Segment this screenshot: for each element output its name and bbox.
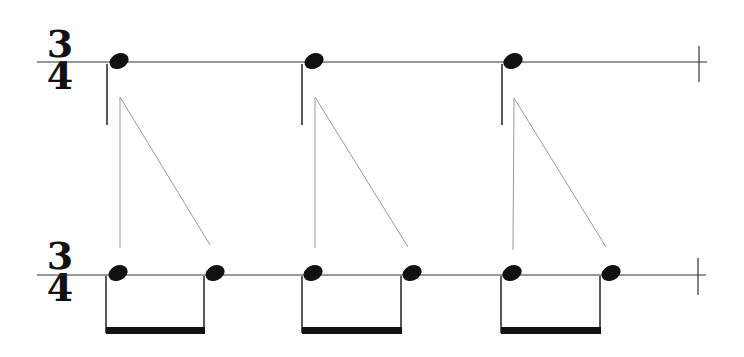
beam <box>501 327 601 334</box>
guide-vertical <box>513 98 514 250</box>
beam <box>302 327 402 334</box>
beam <box>106 327 205 334</box>
notehead-icon <box>107 50 131 72</box>
guide-diagonal <box>120 97 210 245</box>
notehead-icon <box>203 262 227 284</box>
notehead-icon <box>500 262 524 284</box>
notehead-icon <box>301 262 325 284</box>
top-note-1 <box>107 50 131 125</box>
bottom-group-3 <box>500 262 623 334</box>
notehead-icon <box>501 50 525 72</box>
bottom-group-1 <box>106 262 227 334</box>
guide-diagonal <box>315 97 408 247</box>
mapping-guide-1 <box>120 97 210 248</box>
bottom-group-2 <box>301 262 424 334</box>
mapping-guide-2 <box>315 97 408 248</box>
mapping-guide-3 <box>513 98 606 250</box>
notehead-icon <box>400 262 424 284</box>
top-note-3 <box>501 50 525 125</box>
notehead-icon <box>302 50 326 72</box>
notehead-icon <box>599 262 623 284</box>
notehead-icon <box>106 262 130 284</box>
guide-diagonal <box>514 98 606 247</box>
top-note-2 <box>302 50 326 125</box>
notation-canvas <box>0 0 744 357</box>
